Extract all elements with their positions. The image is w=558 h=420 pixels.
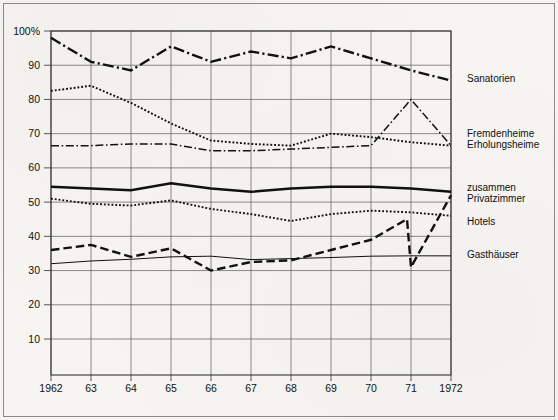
x-axis-tick-label: 65: [165, 382, 177, 394]
legend-label-gasth-user: Gasthäuser: [467, 249, 519, 260]
y-axis-tick-label: 40: [28, 230, 40, 242]
legend-label-privatzimmer: Privatzimmer: [467, 193, 526, 204]
y-axis-tick-label: 10: [28, 333, 40, 345]
y-axis-tick-label: 30: [28, 264, 40, 276]
x-axis-tick-label: 67: [245, 382, 257, 394]
y-axis-tick-label: 90: [28, 59, 40, 71]
y-axis-tick-label: 20: [28, 298, 40, 310]
x-axis-tick-label: 1962: [39, 382, 63, 394]
x-axis-tick-label: 68: [285, 382, 297, 394]
chart-figure: 100%908070605040302010 19626364656667686…: [0, 0, 558, 420]
x-axis-tick-label: 64: [125, 382, 137, 394]
legend-label-sanatorien: Sanatorien: [467, 73, 515, 84]
y-axis-tick-label: 60: [28, 161, 40, 173]
line-chart: 100%908070605040302010 19626364656667686…: [0, 0, 558, 420]
x-axis-tick-label: 71: [405, 382, 417, 394]
x-axis-tick-label: 1972: [439, 382, 463, 394]
legend-label-zusammen: zusammen: [467, 182, 516, 193]
x-axis-tick-label: 70: [365, 382, 377, 394]
legend-label-hotels: Hotels: [467, 216, 495, 227]
chart-background: [0, 0, 558, 420]
x-axis-tick-label: 69: [325, 382, 337, 394]
y-axis-tick-label: 50: [28, 196, 40, 208]
legend-label-erholungsheime: Erholungsheime: [467, 139, 540, 150]
x-axis-tick-label: 66: [205, 382, 217, 394]
y-axis-tick-label: 80: [28, 93, 40, 105]
y-axis-tick-label: 100%: [13, 25, 40, 37]
legend-label-fremdenheime: Fremdenheime: [467, 128, 535, 139]
x-axis-tick-label: 63: [85, 382, 97, 394]
y-axis-tick-label: 70: [28, 127, 40, 139]
